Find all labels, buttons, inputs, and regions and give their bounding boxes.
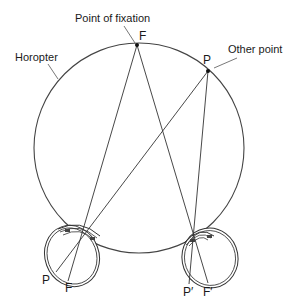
right-eye (177, 224, 243, 293)
fixation-point-dot (135, 43, 139, 47)
other-point-dot (206, 69, 210, 73)
right-retina-F-label: F′ (203, 286, 213, 298)
horopter-leader-line (48, 64, 58, 79)
fixation-leader-line (124, 26, 135, 43)
other-point-caption: Other point (228, 44, 282, 55)
other-point-label: P (203, 54, 211, 66)
fixation-point-label: F (139, 30, 146, 42)
ray-left-F (68, 45, 137, 281)
left-retina-P-label: P (42, 274, 50, 286)
fixation-caption: Point of fixation (75, 13, 150, 24)
horopter-circle (34, 43, 244, 253)
horopter-caption: Horopter (15, 52, 58, 63)
left-retina-F-label: F (65, 282, 72, 294)
right-retina-P-label: P′ (183, 286, 193, 298)
other-point-leader-line (214, 58, 237, 68)
